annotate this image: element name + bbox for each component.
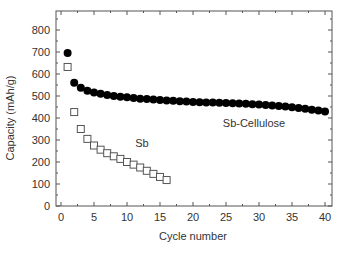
data-point xyxy=(84,135,91,142)
data-point xyxy=(321,107,329,115)
x-tick-label: 35 xyxy=(286,211,298,223)
data-point xyxy=(130,161,137,168)
y-tick-label: 600 xyxy=(32,68,50,80)
data-point xyxy=(137,164,144,171)
x-axis-ticks: 0510152025303540 xyxy=(58,11,331,223)
data-point xyxy=(150,170,157,177)
x-tick-label: 0 xyxy=(58,211,64,223)
y-tick-label: 0 xyxy=(44,200,50,212)
data-point xyxy=(110,153,117,160)
x-tick-label: 40 xyxy=(319,211,331,223)
data-point xyxy=(71,109,78,116)
data-point xyxy=(70,79,78,87)
y-tick-label: 200 xyxy=(32,156,50,168)
data-point xyxy=(124,159,131,166)
y-tick-label: 700 xyxy=(32,46,50,58)
data-point xyxy=(64,63,71,70)
y-tick-label: 500 xyxy=(32,90,50,102)
y-tick-label: 800 xyxy=(32,24,50,36)
data-point xyxy=(117,155,124,162)
x-axis-title: Cycle number xyxy=(159,230,227,242)
y-tick-label: 400 xyxy=(32,112,50,124)
x-tick-label: 25 xyxy=(220,211,232,223)
x-tick-label: 20 xyxy=(187,211,199,223)
data-point xyxy=(77,126,84,133)
capacity-chart: 0100200300400500600700800 05101520253035… xyxy=(0,0,348,253)
data-point xyxy=(91,142,98,149)
series-sb-cellulose xyxy=(64,49,329,115)
data-point xyxy=(143,167,150,174)
data-series xyxy=(64,49,329,183)
annotation-sb-cellulose: Sb-Cellulose xyxy=(223,117,285,129)
y-axis-title: Capacity (mAh/g) xyxy=(4,76,16,161)
data-point xyxy=(64,49,72,57)
data-point xyxy=(163,177,170,184)
data-point xyxy=(90,88,98,96)
y-tick-label: 300 xyxy=(32,134,50,146)
series-sb xyxy=(64,63,170,183)
y-tick-label: 100 xyxy=(32,178,50,190)
x-tick-label: 15 xyxy=(154,211,166,223)
x-tick-label: 10 xyxy=(121,211,133,223)
annotation-sb: Sb xyxy=(135,137,148,149)
data-point xyxy=(97,146,104,153)
data-point xyxy=(104,150,111,157)
data-point xyxy=(157,173,164,180)
x-tick-label: 30 xyxy=(253,211,265,223)
x-tick-label: 5 xyxy=(91,211,97,223)
